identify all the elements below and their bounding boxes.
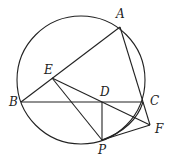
point-labels: A B C D E F P [8, 7, 164, 157]
circumcircle [17, 16, 145, 144]
arc-pc [102, 102, 143, 140]
label-C: C [150, 94, 159, 108]
label-F: F [154, 122, 164, 136]
segment-EP [52, 78, 102, 140]
label-A: A [115, 7, 125, 21]
segment-AC [120, 27, 143, 102]
label-P: P [97, 143, 107, 157]
label-D: D [99, 85, 110, 99]
label-E: E [43, 63, 53, 77]
label-B: B [8, 95, 18, 109]
geometry-diagram: A B C D E F P [0, 0, 171, 162]
